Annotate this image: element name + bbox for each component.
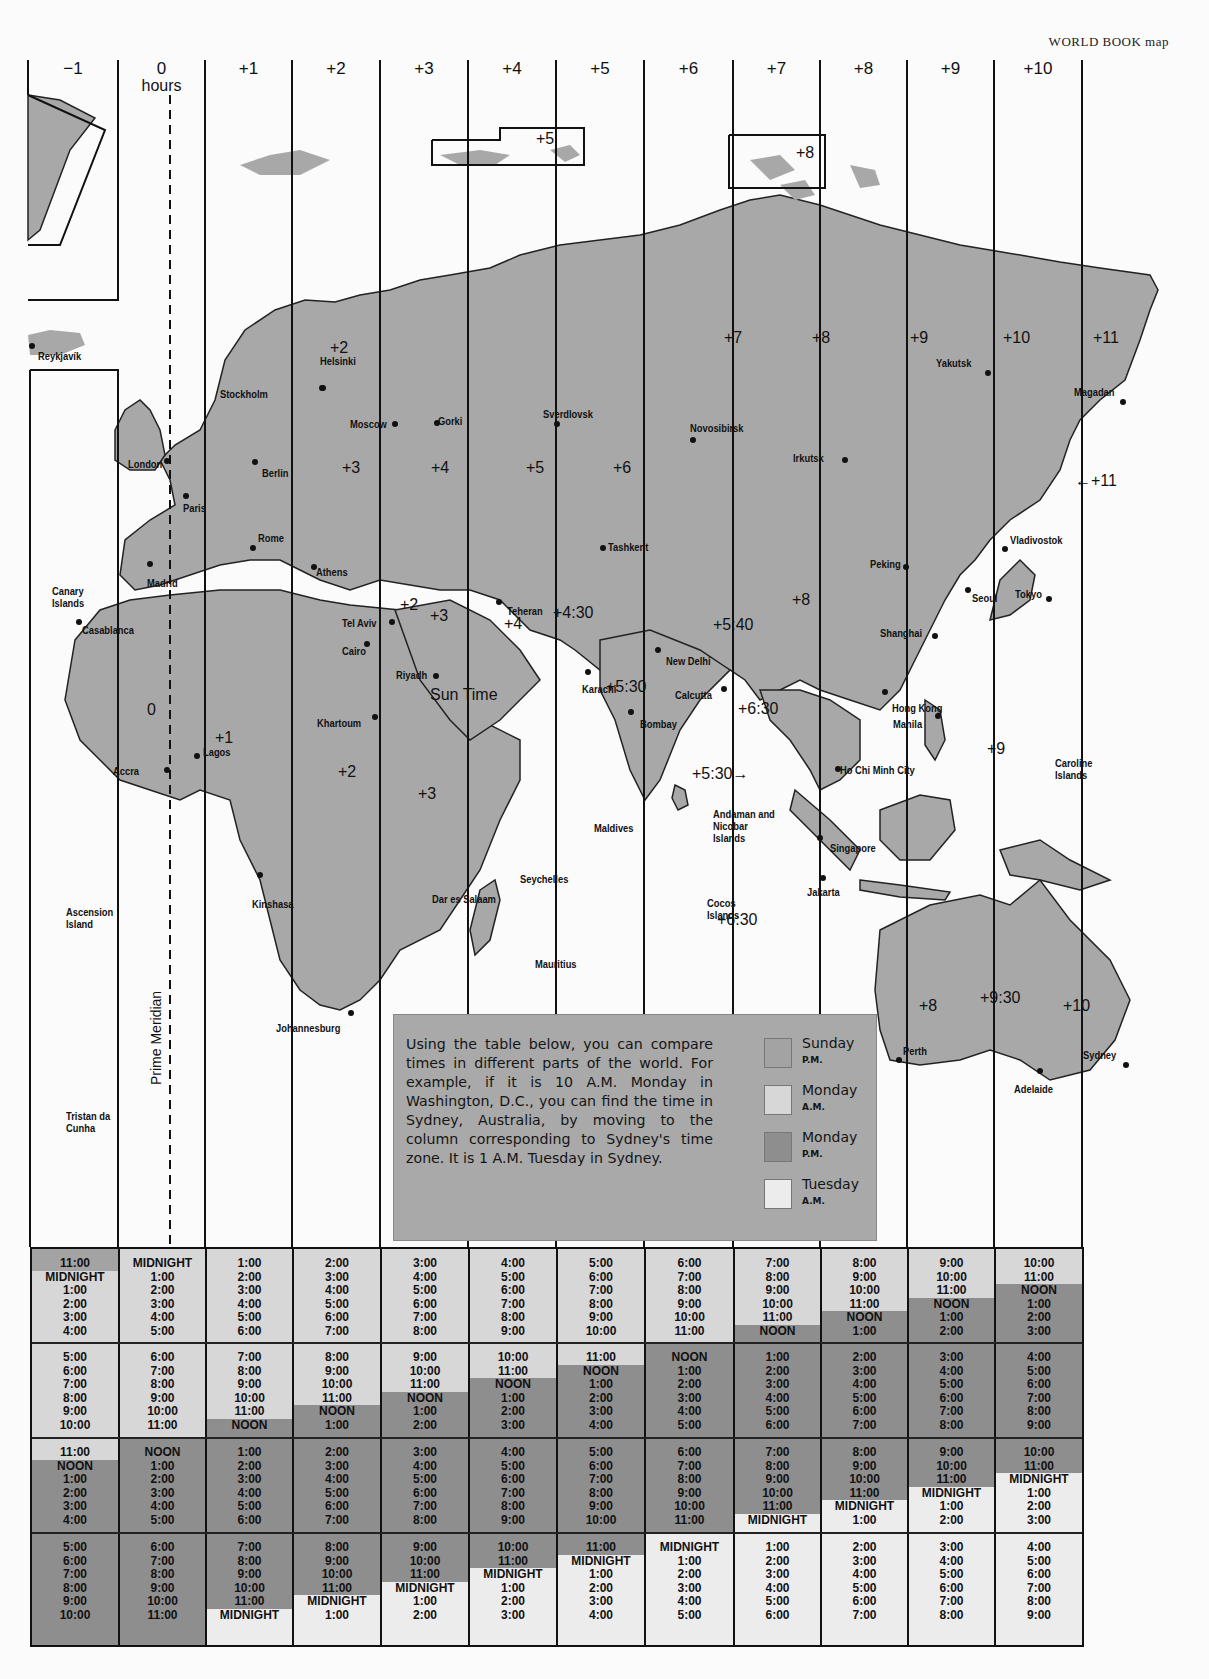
time-value: 2:00 (558, 1392, 644, 1406)
zone-label: +10 (1003, 330, 1030, 346)
city-dot-icon (364, 641, 370, 647)
time-value: 8:00 (822, 1446, 907, 1460)
time-value: 4:00 (909, 1555, 994, 1569)
time-value: 9:00 (909, 1446, 994, 1460)
time-value: 5:00 (120, 1514, 205, 1528)
zone-label: +5 (526, 460, 544, 476)
time-value: 11:00 (32, 1446, 118, 1460)
time-value: 11:00 (207, 1405, 292, 1419)
place-label: Maldives (594, 822, 654, 834)
table-cell: 4:005:006:007:008:009:00 (470, 1438, 556, 1533)
time-value: 8:00 (32, 1392, 118, 1406)
time-value: 5:00 (996, 1365, 1082, 1379)
table-cell: 9:0010:0011:00MIDNIGHT1:002:00 (909, 1438, 994, 1533)
time-value: 3:00 (120, 1487, 205, 1501)
zone-label: +6 (613, 460, 631, 476)
time-value: 7:00 (646, 1271, 733, 1285)
table-column-zone-plus10: 10:0011:00NOON1:002:003:004:005:006:007:… (996, 1249, 1082, 1645)
table-column-zone-plus4: 4:005:006:007:008:009:0010:0011:00NOON1:… (470, 1249, 558, 1645)
zone-label: +2 (338, 764, 356, 780)
time-value: NOON (120, 1446, 205, 1460)
time-value: 6:00 (470, 1473, 556, 1487)
time-value: 10:00 (646, 1311, 733, 1325)
time-value: 7:00 (909, 1595, 994, 1609)
city-dot-icon (147, 561, 153, 567)
city-label: Kinshasa (252, 898, 294, 910)
time-value: 3:00 (996, 1514, 1082, 1528)
time-value: NOON (735, 1325, 820, 1339)
legend-ampm: A.M. (802, 1196, 825, 1206)
zone-label: +2 (400, 597, 418, 613)
zone-label: +7 (724, 330, 742, 346)
time-value: 7:00 (735, 1257, 820, 1271)
table-cell: 8:009:0010:0011:00NOON1:00 (294, 1343, 380, 1438)
table-cell: 10:0011:00NOON1:002:003:00 (470, 1343, 556, 1438)
greenland-shape (28, 95, 95, 240)
time-value: 8:00 (822, 1257, 907, 1271)
table-cell: 2:003:004:005:006:007:00 (294, 1249, 380, 1343)
city-dot-icon (1120, 399, 1126, 405)
legend-day: Tuesday (802, 1176, 859, 1192)
table-column-zone-plus1: 1:002:003:004:005:006:007:008:009:0010:0… (207, 1249, 294, 1645)
time-value: 9:00 (822, 1460, 907, 1474)
city-label: Rome (258, 532, 284, 544)
time-value: 2:00 (207, 1271, 292, 1285)
table-cell: 2:003:004:005:006:007:00 (294, 1438, 380, 1533)
zone-label: +4 (504, 616, 522, 632)
city-label: Hong Kong (892, 702, 942, 714)
time-value: 4:00 (735, 1582, 820, 1596)
time-value: 1:00 (909, 1500, 994, 1514)
table-cell: 11:00MIDNIGHT1:002:003:004:00 (32, 1249, 118, 1343)
time-comparison-table: 11:00MIDNIGHT1:002:003:004:005:006:007:0… (30, 1247, 1084, 1647)
table-column-zone-0: MIDNIGHT1:002:003:004:005:006:007:008:00… (120, 1249, 207, 1645)
city-dot-icon (690, 437, 696, 443)
time-value: 5:00 (382, 1284, 468, 1298)
table-cell: 10:0011:00MIDNIGHT1:002:003:00 (470, 1533, 556, 1645)
time-value: 3:00 (558, 1595, 644, 1609)
zone-label: +10 (1063, 998, 1090, 1014)
time-value: 8:00 (558, 1298, 644, 1312)
time-value: 10:00 (470, 1351, 556, 1365)
time-value: 10:00 (32, 1609, 118, 1623)
legend-item-monday-pm: Monday P.M. (764, 1131, 874, 1178)
place-label: Andaman and Nicobar Islands (713, 808, 781, 844)
time-value: 8:00 (207, 1555, 292, 1569)
table-cell: 1:002:003:004:005:006:00 (207, 1438, 292, 1533)
time-value: 1:00 (32, 1473, 118, 1487)
time-value: 1:00 (470, 1582, 556, 1596)
time-value: 7:00 (207, 1541, 292, 1555)
time-value: 5:00 (558, 1446, 644, 1460)
time-value: 2:00 (735, 1365, 820, 1379)
table-cell: 3:004:005:006:007:008:00 (382, 1249, 468, 1343)
table-cell: NOON1:002:003:004:005:00 (120, 1438, 205, 1533)
time-value: 1:00 (558, 1378, 644, 1392)
table-cell: 9:0010:0011:00NOON1:002:00 (382, 1343, 468, 1438)
legend-swatch (764, 1085, 792, 1115)
time-value: 3:00 (207, 1284, 292, 1298)
legend-item-sunday-pm: Sunday P.M. (764, 1037, 874, 1084)
time-value: 5:00 (120, 1325, 205, 1339)
zone-label: +8 (812, 330, 830, 346)
time-value: 7:00 (996, 1392, 1082, 1406)
time-value: 11:00 (382, 1378, 468, 1392)
time-value: 6:00 (32, 1365, 118, 1379)
time-value: 1:00 (822, 1325, 907, 1339)
city-dot-icon (164, 458, 170, 464)
time-value: 8:00 (470, 1311, 556, 1325)
time-value: 5:00 (32, 1541, 118, 1555)
time-value: NOON (470, 1378, 556, 1392)
time-value: 4:00 (120, 1311, 205, 1325)
time-value: MIDNIGHT (470, 1568, 556, 1582)
city-dot-icon (935, 713, 941, 719)
zone-label: +5:40 (713, 617, 753, 633)
city-dot-icon (392, 421, 398, 427)
time-value: 2:00 (909, 1325, 994, 1339)
time-value: 11:00 (909, 1473, 994, 1487)
time-value: 7:00 (996, 1582, 1082, 1596)
time-value: 6:00 (294, 1311, 380, 1325)
time-value: 6:00 (558, 1271, 644, 1285)
time-value: 11:00 (32, 1257, 118, 1271)
time-value: 5:00 (207, 1500, 292, 1514)
table-cell: 3:004:005:006:007:008:00 (909, 1343, 994, 1438)
time-value: 4:00 (382, 1460, 468, 1474)
